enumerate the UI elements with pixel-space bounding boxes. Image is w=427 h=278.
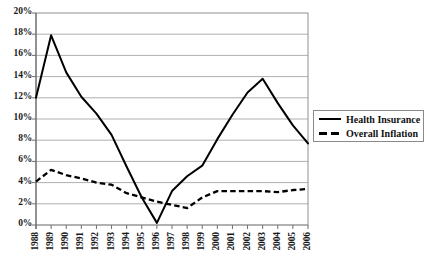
y-axis-tick-label: 10%	[0, 113, 32, 123]
plot-frame	[36, 13, 308, 229]
x-axis-tick-label: 2006	[303, 232, 313, 251]
x-axis-tick-label: 1988	[31, 232, 41, 251]
y-axis-tick-label: 8%	[0, 134, 32, 144]
legend-label-health-insurance: Health Insurance	[346, 114, 420, 125]
y-axis-tick-label: 12%	[0, 92, 32, 102]
y-axis-tick-label: 2%	[0, 198, 32, 208]
x-axis-tick-label: 1995	[137, 232, 147, 251]
x-axis-tick-label: 1996	[152, 232, 162, 251]
x-axis-tick-label: 1991	[76, 232, 86, 251]
x-axis-tick-label: 1994	[122, 232, 132, 251]
x-axis-tick-label: 1998	[182, 232, 192, 251]
x-axis-tick-label: 2001	[227, 232, 237, 251]
x-axis-tick-label: 1999	[197, 232, 207, 251]
x-axis-tick-label: 2000	[212, 232, 222, 251]
y-axis-tick-label: 14%	[0, 71, 32, 81]
y-axis-tick-label: 18%	[0, 28, 32, 38]
legend-key-dashed-line-icon	[319, 128, 341, 138]
x-axis-tick-label: 2002	[243, 232, 253, 251]
x-axis-tick-label: 1990	[61, 232, 71, 251]
chart-container: 0%2%4%6%8%10%12%14%16%18%20% 19881989199…	[0, 0, 427, 278]
gridlines	[36, 34, 308, 225]
x-axis-tick-label: 1992	[91, 232, 101, 251]
y-axis-tick-label: 0%	[0, 219, 32, 229]
x-axis-tick-label: 1993	[107, 232, 117, 251]
series-line-health-insurance	[36, 35, 308, 223]
x-axis-tick-label: 1997	[167, 232, 177, 251]
legend-key-solid-line-icon	[319, 114, 341, 124]
x-axis-tick-label: 2005	[288, 232, 298, 251]
legend-item-health-insurance: Health Insurance	[314, 112, 423, 126]
legend-label-overall-inflation: Overall Inflation	[346, 128, 418, 139]
y-axis-tick-label: 20%	[0, 7, 32, 17]
x-axis-tick-label: 1989	[46, 232, 56, 251]
y-axis-tick-label: 16%	[0, 49, 32, 59]
series-line-overall-inflation	[36, 170, 308, 208]
x-axis-tick-label: 2004	[273, 232, 283, 251]
x-axis-tick-label: 2003	[258, 232, 268, 251]
chart-legend: Health Insurance Overall Inflation	[313, 110, 424, 142]
y-axis-tick-label: 6%	[0, 155, 32, 165]
y-axis-tick-label: 4%	[0, 177, 32, 187]
legend-item-overall-inflation: Overall Inflation	[314, 126, 423, 140]
data-series	[36, 35, 308, 223]
